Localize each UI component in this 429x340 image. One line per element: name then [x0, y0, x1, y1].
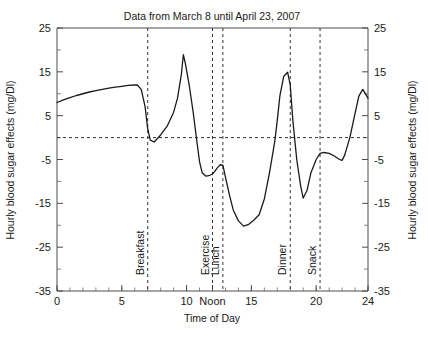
event-label-lunch: Lunch [209, 246, 221, 275]
y-axis-title-right: Hourly blood sugar effects (mg/Dl) [406, 80, 418, 239]
data-series-group [57, 55, 368, 226]
x-tick-label: 5 [119, 295, 125, 307]
chart-title: Data from March 8 until April 23, 2007 [124, 10, 300, 22]
axis-titles: Time of Day Hourly blood sugar effects (… [4, 80, 418, 324]
data-series-line-0 [57, 55, 368, 226]
y-tick-label-left: -25 [35, 241, 51, 253]
y-tick-label-right: -15 [374, 197, 390, 209]
y-tick-label-left: 5 [45, 110, 51, 122]
event-label-dinner: Dinner [276, 244, 288, 275]
chart-canvas: Data from March 8 until April 23, 2007 0… [0, 0, 429, 340]
x-tick-label: Noon [199, 295, 225, 307]
y-tick-label-right: -35 [374, 285, 390, 297]
x-tick-label: 10 [180, 295, 192, 307]
y-tick-label-right: 5 [374, 110, 380, 122]
y-axis-right-ticks: 25155-5-15-25-35 [362, 22, 390, 297]
y-tick-label-left: -35 [35, 285, 51, 297]
x-axis-ticks: 0510Noon152024 [54, 285, 374, 307]
y-tick-label-right: 15 [374, 66, 386, 78]
event-label-breakfast: Breakfast [134, 231, 146, 275]
event-label-snack: Snack [306, 245, 318, 275]
event-marker-lines [148, 28, 320, 291]
y-tick-label-left: 25 [39, 22, 51, 34]
y-axis-title-left: Hourly blood sugar effects (mg/Dl) [4, 80, 16, 239]
y-axis-left-ticks: 25155-5-15-25-35 [35, 22, 63, 297]
x-axis-title: Time of Day [184, 312, 241, 324]
x-tick-label: 20 [310, 295, 322, 307]
y-tick-label-left: -15 [35, 197, 51, 209]
x-tick-label: 24 [362, 295, 374, 307]
y-tick-label-left: -5 [41, 154, 51, 166]
y-tick-label-right: -25 [374, 241, 390, 253]
x-tick-label: 15 [245, 295, 257, 307]
y-tick-label-right: 25 [374, 22, 386, 34]
y-tick-label-left: 15 [39, 66, 51, 78]
x-tick-label: 0 [54, 295, 60, 307]
blood-sugar-chart-figure: Data from March 8 until April 23, 2007 0… [0, 0, 429, 340]
y-tick-label-right: -5 [374, 154, 384, 166]
chart-title-group: Data from March 8 until April 23, 2007 [124, 10, 300, 22]
